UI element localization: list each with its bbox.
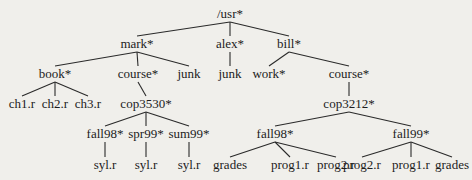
tree-node-ch2: ch2.r	[42, 96, 69, 111]
tree-node-grades1: grades	[213, 157, 247, 172]
tree-node-mark_course: course*	[118, 66, 158, 81]
tree-node-grades2: grades	[435, 157, 469, 172]
tree-node-spr99: spr99*	[128, 126, 163, 141]
tree-node-prog1a: prog1.r	[271, 157, 310, 172]
tree-node-syl2: syl.r	[135, 157, 158, 172]
tree-edge-cop3530-sum99	[146, 112, 189, 126]
tree-node-alex_junk: junk	[217, 66, 242, 81]
tree-edge-usr-mark	[137, 22, 230, 36]
tree-node-bill_course: course*	[329, 66, 369, 81]
tree-node-syl3: syl.r	[178, 157, 201, 172]
tree-edge-bill-work	[269, 52, 289, 66]
tree-node-fall98b: fall98*	[257, 126, 294, 141]
tree-node-cop3530: cop3530*	[120, 96, 171, 111]
tree-edge-bill-bill_course	[289, 52, 349, 66]
tree-edge-usr-bill	[230, 22, 289, 36]
tree-edge-cop3530-fall98a	[105, 112, 146, 126]
tree-edge-cop3212-fall98b	[275, 112, 349, 126]
tree-edge-mark-mark_junk	[137, 52, 189, 66]
tree-edge-fall99-grades2	[411, 142, 452, 157]
tree-node-fall98a: fall98*	[87, 126, 124, 141]
tree-edge-cop3212-fall99	[349, 112, 411, 126]
tree-node-work: work*	[252, 66, 285, 81]
tree-edge-mark-book	[55, 52, 137, 66]
tree-edge-fall98b-grades1	[230, 142, 275, 157]
tree-edge-fall98b-prog2a	[275, 142, 336, 157]
tree-node-mark: mark*	[120, 36, 153, 51]
tree-edge-fall99-prog2b	[362, 142, 411, 157]
tree-node-book: book*	[39, 66, 72, 81]
tree-node-syl1: syl.r	[94, 157, 117, 172]
tree-node-alex: alex*	[216, 36, 244, 51]
tree-node-prog2b: prog2.r	[343, 157, 382, 172]
tree-edge-book-ch1	[22, 82, 55, 96]
tree-edge-book-ch3	[55, 82, 88, 96]
tree-node-ch3: ch3.r	[75, 96, 102, 111]
directory-tree-diagram: /usr*mark*alex*bill*book*course*junkjunk…	[0, 0, 472, 180]
tree-node-mark_junk: junk	[176, 66, 201, 81]
tree-node-prog1b: prog1.r	[392, 157, 431, 172]
tree-node-fall99: fall99*	[393, 126, 430, 141]
tree-node-cop3212: cop3212*	[323, 96, 374, 111]
tree-edge-mark-mark_course	[137, 52, 138, 66]
tree-node-bill: bill*	[277, 36, 301, 51]
tree-node-sum99: sum99*	[168, 126, 209, 141]
tree-edge-mark_course-cop3530	[138, 82, 146, 96]
tree-node-ch1: ch1.r	[9, 96, 36, 111]
tree-nodes: /usr*mark*alex*bill*book*course*junkjunk…	[9, 6, 469, 172]
tree-node-usr: /usr*	[217, 6, 243, 21]
